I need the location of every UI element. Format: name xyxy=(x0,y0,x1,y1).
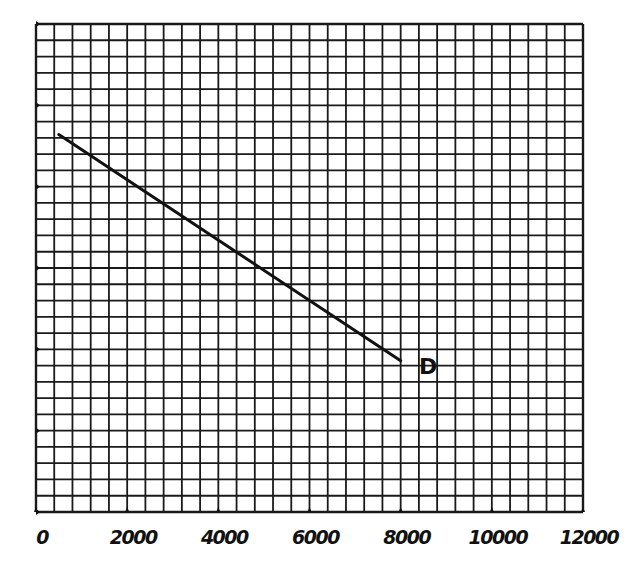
x-tick-label: 6000 xyxy=(292,526,340,548)
chart-grid xyxy=(36,24,583,512)
line-chart: 020004000600080001000012000 D xyxy=(0,0,634,574)
series-label-annotation: D xyxy=(419,354,437,379)
x-tick-mark xyxy=(490,507,494,512)
series-line xyxy=(59,135,401,361)
x-tick-label: 10000 xyxy=(469,526,529,548)
x-tick-mark xyxy=(308,507,312,512)
y-tick-mark xyxy=(36,184,40,190)
x-tick-label: 0 xyxy=(36,526,49,548)
x-tick-label: 8000 xyxy=(383,526,431,548)
y-tick-mark xyxy=(36,346,40,352)
y-tick-mark xyxy=(36,102,40,108)
y-tick-mark xyxy=(36,21,40,27)
x-tick-mark xyxy=(216,507,220,512)
x-tick-label: 2000 xyxy=(110,526,158,548)
x-tick-mark xyxy=(125,507,129,512)
annotations: D xyxy=(419,354,437,379)
y-tick-mark xyxy=(36,265,40,271)
data-series xyxy=(59,135,401,361)
x-tick-mark xyxy=(581,507,585,512)
x-axis-tick-labels: 020004000600080001000012000 xyxy=(36,526,619,548)
y-tick-mark xyxy=(36,428,40,434)
x-tick-mark xyxy=(34,507,38,512)
x-tick-mark xyxy=(399,507,403,512)
x-tick-label: 12000 xyxy=(560,526,620,548)
x-tick-label: 4000 xyxy=(200,526,249,548)
